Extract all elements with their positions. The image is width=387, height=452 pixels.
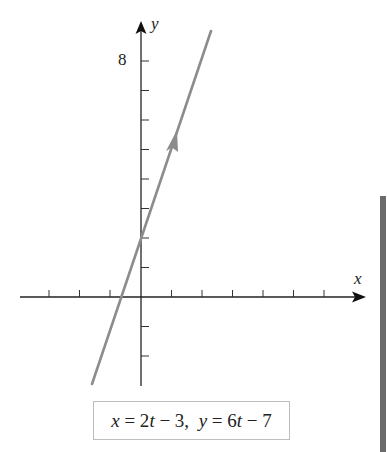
eq-x-var: x xyxy=(111,410,119,431)
equation-box: x = 2t − 3, y = 6t − 7 xyxy=(93,401,290,440)
x-axis-label: x xyxy=(354,269,362,289)
eq-y-rhs-a: = 6 xyxy=(207,410,237,431)
x-ticks xyxy=(49,290,324,297)
eq-x-rhs-a: = 2 xyxy=(120,410,150,431)
parametric-line-chart xyxy=(0,0,387,452)
page-edge-bar xyxy=(380,196,386,452)
eq-y-rhs-b: − 7 xyxy=(242,410,272,431)
y-tick-label-8: 8 xyxy=(118,50,127,70)
parametric-line xyxy=(92,31,211,384)
y-axis-label: y xyxy=(151,14,159,34)
y-ticks xyxy=(141,61,149,356)
eq-y-var: y xyxy=(199,410,207,431)
eq-x-rhs-b: − 3, xyxy=(155,410,199,431)
